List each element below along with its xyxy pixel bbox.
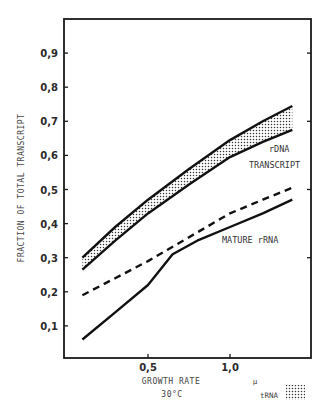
y-tick-label: 0,3 [40,253,58,264]
legend: tRNA [260,385,305,400]
annotation-rdna: rDNA [269,144,289,154]
x-tick-label: 1,0 [221,362,239,373]
chart-figure: 0,10,20,30,40,50,60,70,80,9 0,51,0 FRACT… [0,0,328,417]
x-tick-label: 0,5 [139,362,157,373]
series-line-3 [82,200,292,340]
x-axis-ticks: 0,51,0 [139,354,239,373]
x-axis-label: GROWTH RATE [142,377,200,386]
y-tick-label: 0,6 [40,150,58,161]
x-axis-unit: μ [253,377,258,386]
y-tick-label: 0,5 [40,185,58,196]
legend-label-trna: tRNA [260,391,279,400]
series-line-1 [82,130,292,270]
y-axis-label: FRACTION OF TOTAL TRANSCRIPT [17,114,26,263]
y-tick-label: 0,7 [40,116,58,127]
y-tick-label: 0,2 [40,287,58,298]
y-tick-label: 0,8 [40,82,58,93]
plot-frame [64,19,311,358]
caption-fragment [0,413,328,417]
y-tick-label: 0,1 [40,321,58,332]
x-axis-sublabel: 30°C [161,390,182,399]
annotation-transcript: TRANSCRIPT [249,160,300,170]
annotation-mature-rrna: MATURE rRNA [222,235,278,245]
y-tick-label: 0,9 [40,48,58,59]
y-tick-label: 0,4 [40,219,58,230]
legend-swatch-stipple [286,385,305,400]
